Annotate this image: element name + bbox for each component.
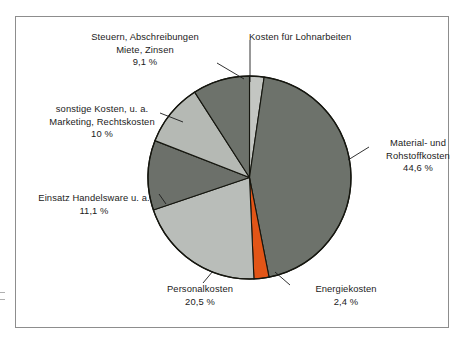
slice-label-energie: Energiekosten 2,4 % xyxy=(296,283,396,308)
leader-line-personal xyxy=(203,271,213,283)
slice-label-steuern-line2: Miete, Zinsen xyxy=(60,44,230,57)
slice-label-personal: Personalkosten 20,5 % xyxy=(142,283,258,308)
chart-page: Steuern, Abschreibungen Miete, Zinsen 9,… xyxy=(0,0,466,343)
slice-label-handelsware-value: 11,1 % xyxy=(18,205,170,218)
slice-label-sonstige: sonstige Kosten, u. a. Marketing, Rechts… xyxy=(22,103,182,141)
slice-label-sonstige-value: 10 % xyxy=(22,128,182,141)
slice-label-lohnarbeiten-line1: Kosten für Lohnarbeiten xyxy=(249,31,389,44)
slice-label-material-value: 44,6 % xyxy=(370,162,466,175)
slice-label-steuern-value: 9,1 % xyxy=(60,56,230,69)
slice-label-handelsware-line1: Einsatz Handelsware u. a. xyxy=(18,192,170,205)
slice-label-energie-value: 2,4 % xyxy=(296,296,396,309)
slice-label-sonstige-line1: sonstige Kosten, u. a. xyxy=(22,103,182,116)
slice-label-energie-line1: Energiekosten xyxy=(296,283,396,296)
slice-label-personal-line1: Personalkosten xyxy=(142,283,258,296)
leader-line-material xyxy=(348,147,369,160)
pie-slice-material[interactable] xyxy=(250,77,352,277)
slice-label-sonstige-line2: Marketing, Rechtskosten xyxy=(22,116,182,129)
slice-label-lohnarbeiten: Kosten für Lohnarbeiten xyxy=(249,31,389,44)
slice-label-steuern-line1: Steuern, Abschreibungen xyxy=(60,31,230,44)
slice-label-personal-value: 20,5 % xyxy=(142,296,258,309)
slice-label-handelsware: Einsatz Handelsware u. a. 11,1 % xyxy=(18,192,170,217)
slice-label-steuern: Steuern, Abschreibungen Miete, Zinsen 9,… xyxy=(60,31,230,69)
slice-label-material-line2: Rohstoffkosten xyxy=(370,150,466,163)
slice-label-material-line1: Material- und xyxy=(370,137,466,150)
slice-label-material: Material- und Rohstoffkosten 44,6 % xyxy=(370,137,466,175)
